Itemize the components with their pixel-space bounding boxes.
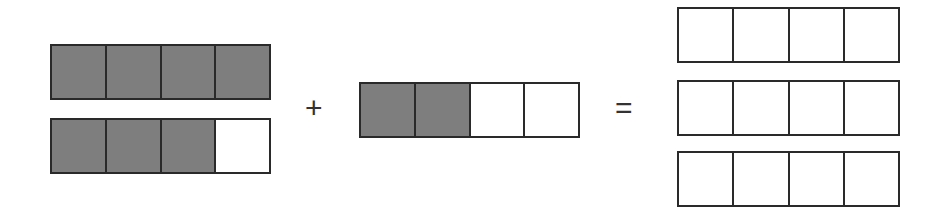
cell [790, 82, 845, 134]
cell [845, 9, 898, 61]
cell [361, 84, 416, 136]
cell [216, 46, 269, 98]
cell [525, 84, 578, 136]
cell [471, 84, 526, 136]
cell [216, 120, 269, 172]
cell [790, 153, 845, 205]
result-bar-2 [677, 80, 900, 136]
cell [679, 153, 734, 205]
cell [734, 9, 789, 61]
equals-sign: = [615, 93, 633, 123]
cell [162, 46, 217, 98]
cell [416, 84, 471, 136]
cell [107, 46, 162, 98]
result-bar-3 [677, 151, 900, 207]
cell [734, 82, 789, 134]
plus-sign: + [305, 93, 323, 123]
cell [52, 46, 107, 98]
left-bar-1 [50, 44, 271, 100]
cell [52, 120, 107, 172]
cell [790, 9, 845, 61]
cell [679, 82, 734, 134]
cell [845, 82, 898, 134]
cell [107, 120, 162, 172]
cell [734, 153, 789, 205]
result-bar-1 [677, 7, 900, 63]
left-bar-2 [50, 118, 271, 174]
cell [162, 120, 217, 172]
middle-bar [359, 82, 580, 138]
cell [845, 153, 898, 205]
cell [679, 9, 734, 61]
